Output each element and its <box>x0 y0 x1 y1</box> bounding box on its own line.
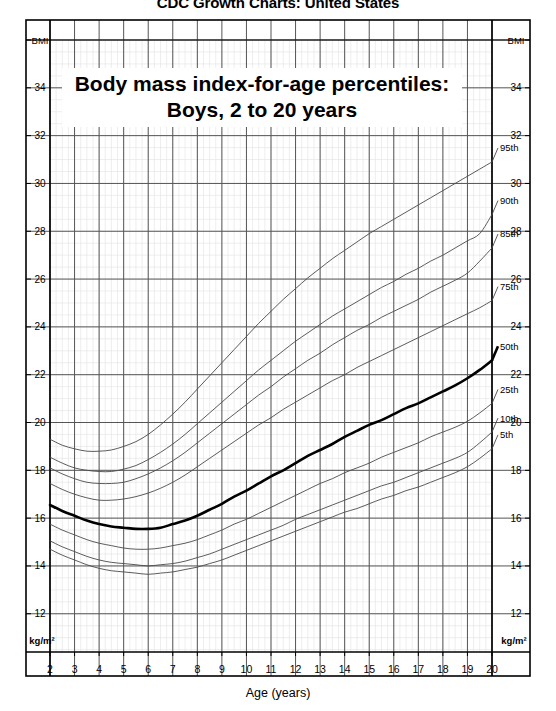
percentile-label-90th: 90th <box>500 195 519 206</box>
y-tick-label-right-12: 12 <box>510 608 522 619</box>
x-tick-label-5: 5 <box>121 663 127 675</box>
percentile-label-85th: 85th <box>500 228 519 239</box>
y-tick-label-right-18: 18 <box>510 465 522 476</box>
y-tick-label-right-14: 14 <box>510 560 522 571</box>
x-tick-label-16: 16 <box>388 663 400 675</box>
percentile-label-5th: 5th <box>500 429 513 440</box>
y-tick-label-right-16: 16 <box>510 513 522 524</box>
x-tick-label-17: 17 <box>412 663 424 675</box>
percentile-label-25th: 25th <box>500 384 519 395</box>
y-axis-label-left: BMI <box>32 35 49 46</box>
y-tick-label-left-20: 20 <box>34 417 46 428</box>
x-axis-title: Age (years) <box>0 686 556 700</box>
y-axis-label-right: BMI <box>508 35 525 46</box>
growth-chart-page: CDC Growth Charts: United States 3434323… <box>0 0 556 711</box>
x-tick-label-8: 8 <box>194 663 200 675</box>
x-tick-label-20: 20 <box>486 663 498 675</box>
chart-main-title: Body mass index-for-age percentiles: Boy… <box>62 68 462 127</box>
x-tick-label-3: 3 <box>72 663 78 675</box>
x-tick-label-18: 18 <box>437 663 449 675</box>
x-tick-label-2: 2 <box>47 663 53 675</box>
y-tick-label-left-24: 24 <box>34 321 46 332</box>
percentile-label-75th: 75th <box>500 281 519 292</box>
percentile-label-95th: 95th <box>500 142 519 153</box>
x-tick-label-9: 9 <box>219 663 225 675</box>
y-tick-label-left-34: 34 <box>34 82 46 93</box>
y-tick-label-right-24: 24 <box>510 321 522 332</box>
y-tick-label-left-30: 30 <box>34 178 46 189</box>
y-axis-unit-right: kg/m² <box>501 635 526 646</box>
percentile-label-50th: 50th <box>500 341 519 352</box>
y-tick-label-left-12: 12 <box>34 608 46 619</box>
y-axis-unit-left: kg/m² <box>29 635 54 646</box>
y-tick-label-left-32: 32 <box>34 130 46 141</box>
y-tick-label-left-26: 26 <box>34 274 46 285</box>
x-tick-label-4: 4 <box>96 663 102 675</box>
x-tick-label-7: 7 <box>170 663 176 675</box>
y-tick-label-right-32: 32 <box>510 130 522 141</box>
chart-title-line-2: Boys, 2 to 20 years <box>68 97 456 123</box>
chart-title-line-1: Body mass index-for-age percentiles: <box>68 71 456 97</box>
y-tick-label-right-22: 22 <box>510 369 522 380</box>
percentile-label-10th: 10th <box>500 413 519 424</box>
y-tick-label-left-18: 18 <box>34 465 46 476</box>
x-tick-label-15: 15 <box>363 663 375 675</box>
y-tick-label-left-22: 22 <box>34 369 46 380</box>
y-tick-label-left-16: 16 <box>34 513 46 524</box>
y-tick-label-right-30: 30 <box>510 178 522 189</box>
x-tick-label-14: 14 <box>339 663 351 675</box>
y-tick-label-left-28: 28 <box>34 226 46 237</box>
y-tick-label-right-34: 34 <box>510 82 522 93</box>
x-tick-label-12: 12 <box>290 663 302 675</box>
y-tick-label-left-14: 14 <box>34 560 46 571</box>
x-tick-label-10: 10 <box>241 663 253 675</box>
x-tick-label-6: 6 <box>145 663 151 675</box>
x-tick-label-19: 19 <box>462 663 474 675</box>
x-tick-label-13: 13 <box>314 663 326 675</box>
x-tick-label-11: 11 <box>266 663 277 675</box>
